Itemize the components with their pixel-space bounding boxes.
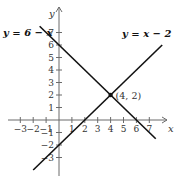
- x-tick-label: 6: [134, 124, 140, 134]
- y-tick-label: −1: [41, 128, 54, 138]
- x-tick-label: −2: [27, 124, 40, 134]
- y-tick-label: 3: [48, 78, 54, 88]
- y-tick-label: 6: [48, 40, 54, 50]
- graph-labels: xyy = 6 − xy = x − 2(4, 2): [2, 8, 174, 134]
- x-tick-label: 4: [108, 124, 114, 134]
- equation-label-6-minus-x: y = 6 − x: [2, 27, 53, 38]
- y-tick-label: −2: [41, 140, 54, 150]
- equation-label-x-minus-2: y = x − 2: [121, 28, 171, 39]
- y-tick-label: 1: [48, 103, 54, 113]
- y-tick-label: 2: [48, 90, 54, 100]
- x-tick-label: 5: [121, 124, 127, 134]
- x-tick-label: 3: [95, 124, 101, 134]
- intersection-point: [108, 93, 112, 97]
- y-axis-label: y: [48, 8, 55, 19]
- x-tick-label: 2: [82, 124, 88, 134]
- y-tick-label: 4: [48, 65, 54, 75]
- y-tick-label: 5: [48, 53, 54, 63]
- x-axis-label: x: [168, 123, 174, 134]
- intersection-label: (4, 2): [116, 90, 142, 101]
- x-tick-label: −3: [14, 124, 28, 134]
- coordinate-graph: −3−2−11234567−3−2−11234567 xyy = 6 − xy …: [0, 0, 175, 178]
